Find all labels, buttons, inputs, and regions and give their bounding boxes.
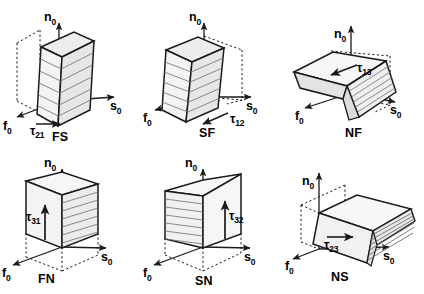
panel-sn: n0 f0 s0 τ32 SN: [141, 147, 282, 294]
panel-fn: n0 f0 s0 τ31 FN: [0, 147, 141, 294]
axis-label-n: n0: [334, 28, 346, 43]
tau-label-fn: τ31: [26, 211, 40, 226]
tau-arrow-sf: [203, 113, 228, 124]
shear-modes-figure: n0 f0 s0 τ21 FS: [0, 0, 424, 294]
axis-s-line: [203, 247, 250, 248]
tau-label-sf: τ12: [230, 113, 244, 128]
panel-sf: n0 f0 s0 τ12 SF: [141, 0, 282, 147]
axis-f-line: [13, 247, 62, 265]
axis-label-s: s0: [110, 100, 121, 115]
axis-label-f: f0: [295, 110, 304, 125]
axis-label-n: n0: [302, 175, 314, 190]
tau-label-nf: τ13: [357, 62, 371, 77]
axis-label-n: n0: [185, 157, 197, 172]
axis-label-s: s0: [383, 250, 394, 265]
axis-s-line: [62, 247, 106, 248]
mode-label-nf: NF: [345, 127, 362, 140]
axis-label-n: n0: [44, 157, 56, 172]
panel-ns: n0 f0 s0 τ23 NS: [283, 147, 424, 294]
axis-f-line: [154, 247, 203, 265]
mode-label-ns: NS: [331, 271, 349, 284]
mode-label-sf: SF: [199, 127, 215, 140]
axis-f-line: [293, 249, 319, 259]
axis-label-s: s0: [244, 251, 255, 266]
panel-nf: n0 f0 s0 τ13 NF: [283, 0, 424, 147]
axis-label-n: n0: [189, 11, 201, 26]
axis-label-f: f0: [285, 260, 294, 275]
mode-label-fs: FS: [52, 131, 68, 144]
mode-label-sn: SN: [195, 275, 213, 288]
axis-label-s: s0: [101, 251, 112, 266]
axis-label-f: f0: [143, 112, 152, 127]
tau-label-sn: τ32: [229, 210, 243, 225]
dashed-construction-lines: [17, 30, 40, 113]
axis-label-s: s0: [246, 100, 257, 115]
axis-label-n: n0: [44, 11, 56, 26]
tau-label-fs: τ21: [30, 125, 44, 140]
mode-label-fn: FN: [38, 273, 55, 286]
panel-fs: n0 f0 s0 τ21 FS: [0, 0, 141, 147]
axis-label-f: f0: [3, 120, 12, 135]
axis-label-f: f0: [143, 267, 152, 282]
tau-label-ns: τ23: [324, 239, 338, 254]
axis-label-f: f0: [2, 267, 11, 282]
axis-label-s: s0: [390, 104, 401, 119]
